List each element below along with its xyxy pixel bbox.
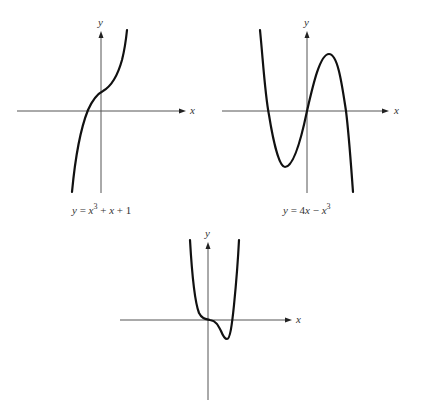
caption-text: = 4 (288, 204, 305, 216)
graph-1: x y (17, 16, 195, 193)
curve-quartic (190, 240, 239, 339)
caption-text: − (310, 204, 322, 216)
x-axis-arrow-icon (382, 109, 389, 114)
x-axis-arrow-icon (179, 109, 186, 114)
graph-2: x y (222, 16, 399, 193)
x-axis-label: x (393, 104, 399, 116)
y-axis-label: y (303, 16, 309, 28)
caption-text: = (77, 204, 89, 216)
x-axis-label: x (189, 104, 195, 116)
y-axis-label: y (97, 16, 103, 28)
x-axis-label: x (295, 313, 301, 325)
caption-exponent: 3 (327, 202, 331, 211)
y-axis-label: y (204, 227, 210, 239)
caption-graph-1: y = x3 + x + 1 (72, 202, 131, 216)
y-axis-arrow-icon (305, 31, 310, 38)
y-axis-arrow-icon (206, 242, 211, 249)
x-axis-arrow-icon (285, 318, 292, 323)
y-axis-arrow-icon (99, 31, 104, 38)
caption-graph-2: y = 4x − x3 (283, 202, 331, 216)
graph-3: x y (120, 227, 301, 400)
caption-text: + (98, 204, 110, 216)
figure-canvas: x y x y x y (0, 0, 421, 401)
caption-text: + 1 (114, 204, 131, 216)
